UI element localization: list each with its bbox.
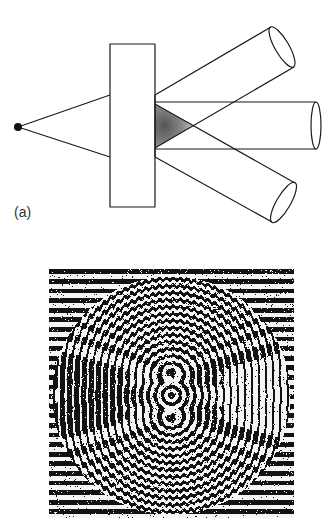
optical-setup-diagram <box>0 0 332 232</box>
overlap-region <box>155 104 193 148</box>
fringe-pattern-image <box>49 269 294 518</box>
point-source <box>14 123 22 131</box>
panel-label-a: (a) <box>14 204 31 220</box>
ray-lower <box>18 127 110 157</box>
ray-upper <box>18 95 110 127</box>
hologram-plate <box>110 44 155 207</box>
interference-fringes <box>49 269 294 518</box>
